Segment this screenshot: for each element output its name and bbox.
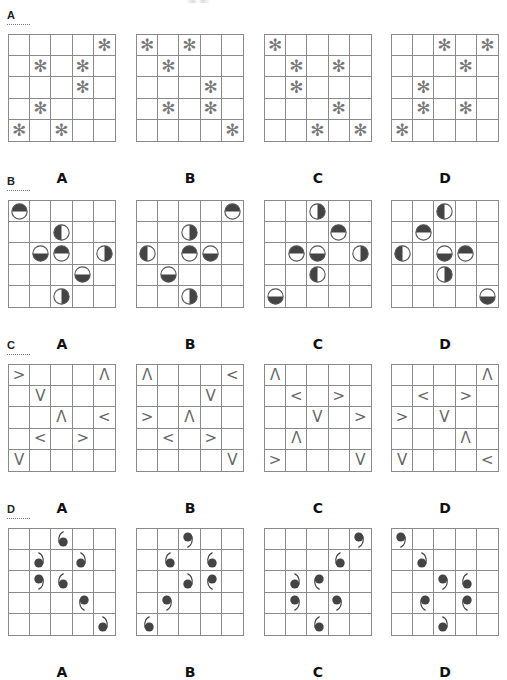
option-grid-a[interactable]: ✻✻✻✻✻✻✻ [8,34,116,142]
dot-with-tail-bl-icon [457,594,474,611]
grid-cell [222,614,243,635]
grid-cell [222,593,243,614]
grid-cell [73,265,94,286]
grid-cell [30,593,51,614]
question-section-d: DABCD [0,494,507,660]
grid-cell [434,550,455,571]
option-label-c[interactable]: C [264,664,372,680]
dot-with-tail-tl-icon [53,573,70,590]
grid-cell [413,614,434,635]
option-grid-d[interactable]: Λ<>>VΛV< [391,364,499,472]
grid-cell [329,243,350,264]
grid-cell [158,450,179,471]
chevron-left-icon: < [98,410,111,425]
grid-cell: ✻ [158,99,179,120]
grid-cell [307,35,328,56]
grid-cell [329,201,350,222]
grid-cell: > [350,407,371,428]
option-grid-c[interactable] [264,200,372,308]
grid-cell [413,286,434,307]
option-grid-d[interactable]: ✻✻✻✻✻✻✻ [391,34,499,142]
chevron-right-icon: > [269,453,282,468]
grid-cell [307,365,328,386]
grid-cell [350,99,371,120]
option-grid-c[interactable] [264,528,372,636]
grid-cell [286,222,307,243]
option-grid-a[interactable]: >ΛVΛ<<>V [8,364,116,472]
asterisk-icon: ✻ [416,100,430,117]
option-grid-c[interactable]: ✻✻✻✻✻✻✻ [264,34,372,142]
grid-cell [51,614,72,635]
asterisk-icon: ✻ [332,100,346,117]
chevron-up-icon: Λ [270,368,280,383]
grid-cell [456,77,477,98]
grid-cell [265,265,286,286]
grid-cell [392,365,413,386]
grid-cell [201,35,222,56]
option-label-d[interactable]: D [391,664,499,680]
grid-cell [477,407,498,428]
asterisk-icon: ✻ [459,58,473,75]
half-filled-circle-bottom-icon [309,245,326,262]
grid-cell: Λ [137,365,158,386]
grid-cell [392,201,413,222]
grid-cell [179,571,200,592]
grid-cell [9,593,30,614]
half-filled-circle-bottom-icon [32,245,49,262]
option-grid-b[interactable]: Λ<V>Λ<>V [136,364,244,472]
grid-cell [329,365,350,386]
dot-with-tail-tl-icon [309,616,326,633]
grid-cell [94,99,115,120]
option-grid-d[interactable] [391,200,499,308]
grid-cell [137,201,158,222]
grid-cell [392,593,413,614]
grid-cell [265,593,286,614]
asterisk-icon: ✻ [395,122,409,139]
grid-cell [9,201,30,222]
grid-cell [137,222,158,243]
grid-cell [456,265,477,286]
question-section-a: A✻✻✻✻✻✻✻A✻✻✻✻✻✻✻B✻✻✻✻✻✻✻C✻✻✻✻✻✻✻D [0,0,507,166]
grid-cell [434,450,455,471]
option-grid-c[interactable]: Λ<>V>Λ>V [264,364,372,472]
grid-cell [201,243,222,264]
option-grid-b[interactable] [136,200,244,308]
grid-cell [158,35,179,56]
chevron-up-icon: Λ [99,368,109,383]
option-grid-a[interactable] [8,528,116,636]
grid-cell [350,571,371,592]
grid-cell [30,222,51,243]
grid-cell [137,286,158,307]
grid-cell [477,571,498,592]
grid-cell: ✻ [158,56,179,77]
option-label-a[interactable]: A [8,664,116,680]
grid-cell: ✻ [179,35,200,56]
grid-cell [222,201,243,222]
chevron-right-icon: > [459,389,472,404]
chevron-down-icon: V [227,453,237,468]
grid-cell [222,222,243,243]
chevron-down-icon: V [397,453,407,468]
option-grid-d[interactable] [391,528,499,636]
option-grid-b[interactable] [136,528,244,636]
grid-cell [286,201,307,222]
grid-cell [265,407,286,428]
grid-cell [51,550,72,571]
grid-cell: ✻ [477,35,498,56]
grid-cell: V [222,450,243,471]
option-grid-a[interactable] [8,200,116,308]
asterisk-icon: ✻ [97,37,111,54]
grid-cell [158,77,179,98]
grid-cell: ✻ [286,77,307,98]
grid-cell: > [392,407,413,428]
option-label-b[interactable]: B [136,664,244,680]
grid-cell [201,265,222,286]
grid-cell [30,407,51,428]
grid-cell [179,386,200,407]
asterisk-icon: ✻ [140,37,154,54]
option-grid-b[interactable]: ✻✻✻✻✻✻✻ [136,34,244,142]
dot-with-tail-br-icon [32,573,49,590]
grid-cell: < [30,429,51,450]
grid-cell [477,77,498,98]
grid-cell [51,99,72,120]
